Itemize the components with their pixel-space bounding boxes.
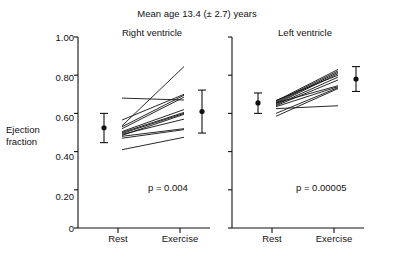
axes: [74, 37, 364, 233]
data-series: [100, 67, 360, 150]
subject-line: [276, 106, 338, 109]
plot-canvas: [0, 0, 394, 264]
subject-line: [276, 71, 338, 102]
subject-line: [122, 137, 184, 149]
mean-marker: [255, 100, 260, 105]
subject-line: [122, 67, 184, 126]
mean-marker: [101, 125, 106, 130]
mean-marker: [353, 76, 358, 81]
subject-line: [276, 74, 338, 104]
mean-marker: [199, 109, 204, 114]
subject-line: [122, 130, 184, 139]
figure-panel: Mean age 13.4 (± 2.7) years Right ventri…: [0, 0, 394, 264]
